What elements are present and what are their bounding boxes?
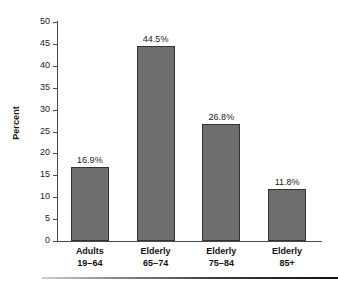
y-axis-tick-mark <box>53 175 57 176</box>
category-label-line1: Elderly <box>206 246 236 256</box>
plot-area: 0510152025303540455016.9%44.5%26.8%11.8% <box>57 22 320 241</box>
y-axis-tick-label: 40 <box>40 60 50 70</box>
category-label-line2: 85+ <box>247 258 327 270</box>
y-axis-tick-mark <box>53 241 57 242</box>
x-axis-category-label: Elderly85+ <box>247 246 327 269</box>
y-axis-tick-mark <box>53 197 57 198</box>
y-axis-tick-label: 50 <box>40 16 50 26</box>
y-axis-tick-mark <box>53 110 57 111</box>
category-label-line1: Adults <box>76 246 104 256</box>
x-axis-line <box>57 241 322 242</box>
y-axis-tick-mark <box>53 132 57 133</box>
y-axis-tick-mark <box>53 219 57 220</box>
y-axis-tick-label: 0 <box>45 235 50 245</box>
bar[interactable]: 11.8% <box>268 189 306 241</box>
bar-chart-figure: Percent 0510152025303540455016.9%44.5%26… <box>0 0 338 283</box>
y-axis-tick-label: 45 <box>40 38 50 48</box>
y-axis-tick-mark <box>53 22 57 23</box>
y-axis-title: Percent <box>11 93 21 153</box>
y-axis-tick-label: 5 <box>45 213 50 223</box>
y-axis-tick-label: 10 <box>40 191 50 201</box>
y-axis-tick-mark <box>53 88 57 89</box>
bar-value-label: 11.8% <box>275 177 300 187</box>
bar[interactable]: 16.9% <box>71 167 109 241</box>
y-axis-tick-mark <box>53 66 57 67</box>
bar-value-label: 16.9% <box>77 155 103 165</box>
category-label-line1: Elderly <box>272 246 302 256</box>
y-axis-tick-label: 20 <box>40 147 50 157</box>
bar-value-label: 44.5% <box>143 34 169 44</box>
bar[interactable]: 44.5% <box>137 46 175 241</box>
y-axis-tick-label: 35 <box>40 82 50 92</box>
bottom-rule <box>42 277 338 279</box>
y-axis-tick-label: 15 <box>40 169 50 179</box>
y-axis-tick-mark <box>53 153 57 154</box>
y-axis-tick-mark <box>53 44 57 45</box>
y-axis-tick-label: 25 <box>40 126 50 136</box>
category-label-line1: Elderly <box>141 246 171 256</box>
bar[interactable]: 26.8% <box>202 124 240 241</box>
bar-value-label: 26.8% <box>209 112 235 122</box>
y-axis-tick-label: 30 <box>40 104 50 114</box>
